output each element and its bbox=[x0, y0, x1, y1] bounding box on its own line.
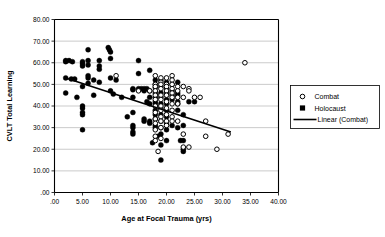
data-point-combat bbox=[164, 123, 169, 128]
y-tick-label: 70.00 bbox=[33, 38, 50, 45]
y-axis-ticks: .0010.0020.0030.0040.0050.0060.0070.0080… bbox=[33, 16, 55, 196]
data-point-combat bbox=[170, 102, 175, 107]
x-tick-label: 25.00 bbox=[186, 198, 203, 205]
data-point-combat bbox=[153, 73, 158, 78]
data-point-combat bbox=[243, 60, 248, 65]
data-point-holocaust bbox=[142, 88, 147, 93]
x-tick-label: 40.00 bbox=[270, 198, 287, 205]
data-point-holocaust bbox=[86, 62, 91, 67]
data-point-combat bbox=[170, 95, 175, 100]
data-point-combat bbox=[192, 95, 197, 100]
legend-label-holocaust: Holocaust bbox=[315, 105, 346, 112]
data-point-combat bbox=[164, 93, 169, 98]
legend-marker-holocaust-icon bbox=[300, 105, 305, 110]
legend-label-combat: Combat bbox=[315, 93, 340, 100]
y-tick-label: 10.00 bbox=[33, 167, 50, 174]
data-point-holocaust bbox=[70, 59, 75, 64]
x-axis-ticks: .005.0010.0015.0020.0025.0030.0035.0040.… bbox=[50, 193, 287, 205]
x-tick-label: .00 bbox=[50, 198, 59, 205]
x-tick-label: 30.00 bbox=[214, 198, 231, 205]
data-point-holocaust bbox=[97, 80, 102, 85]
data-point-combat bbox=[153, 97, 158, 102]
data-point-holocaust bbox=[86, 75, 91, 80]
scatter-chart: .0010.0020.0030.0040.0050.0060.0070.0080… bbox=[0, 0, 385, 237]
x-axis-title: Age at Focal Trauma (yrs) bbox=[121, 214, 212, 223]
data-point-holocaust bbox=[164, 138, 169, 143]
data-point-holocaust bbox=[80, 112, 85, 117]
data-point-combat bbox=[153, 127, 158, 132]
y-tick-label: 30.00 bbox=[33, 124, 50, 131]
y-tick-label: 40.00 bbox=[33, 102, 50, 109]
data-point-holocaust bbox=[142, 119, 147, 124]
data-point-holocaust bbox=[97, 67, 102, 72]
data-point-combat bbox=[153, 121, 158, 126]
data-point-combat bbox=[187, 89, 192, 94]
data-point-holocaust bbox=[74, 95, 79, 100]
x-tick-label: 35.00 bbox=[242, 198, 259, 205]
data-point-combat bbox=[187, 145, 192, 150]
data-point-combat bbox=[198, 95, 203, 100]
data-point-combat bbox=[175, 89, 180, 94]
data-point-combat bbox=[159, 136, 164, 141]
data-point-combat bbox=[181, 95, 186, 100]
data-point-combat bbox=[159, 97, 164, 102]
chart-figure: .0010.0020.0030.0040.0050.0060.0070.0080… bbox=[0, 0, 385, 237]
data-point-holocaust bbox=[181, 123, 186, 128]
data-point-holocaust bbox=[147, 68, 152, 73]
data-point-holocaust bbox=[130, 87, 135, 92]
data-point-combat bbox=[175, 95, 180, 100]
data-point-combat bbox=[170, 119, 175, 124]
data-point-combat bbox=[164, 76, 169, 81]
data-point-holocaust bbox=[91, 78, 96, 83]
data-point-combat bbox=[181, 132, 186, 137]
data-point-combat bbox=[159, 125, 164, 130]
chart-legend: Combat Holocaust Linear (Combat) bbox=[291, 86, 380, 129]
data-point-combat bbox=[147, 89, 152, 94]
legend-marker-combat-icon bbox=[300, 94, 305, 99]
data-point-holocaust bbox=[136, 58, 141, 63]
data-point-combat bbox=[215, 147, 220, 152]
data-point-holocaust bbox=[130, 132, 135, 137]
data-point-holocaust bbox=[80, 63, 85, 68]
y-tick-label: 20.00 bbox=[33, 146, 50, 153]
data-point-combat bbox=[164, 99, 169, 104]
y-axis-title: CVLT Total Learning bbox=[5, 70, 14, 142]
data-point-combat bbox=[203, 134, 208, 139]
data-point-combat bbox=[226, 132, 231, 137]
data-point-holocaust bbox=[86, 47, 91, 52]
data-point-combat bbox=[181, 84, 186, 89]
x-tick-label: 20.00 bbox=[158, 198, 175, 205]
data-point-holocaust bbox=[97, 58, 102, 63]
y-tick-label: 50.00 bbox=[33, 81, 50, 88]
data-point-holocaust bbox=[108, 56, 113, 61]
data-point-holocaust bbox=[175, 108, 180, 113]
data-point-combat bbox=[159, 86, 164, 91]
data-point-combat bbox=[156, 149, 161, 154]
data-point-holocaust bbox=[158, 142, 163, 147]
data-point-combat bbox=[114, 73, 119, 78]
y-tick-label: 60.00 bbox=[33, 59, 50, 66]
y-tick-label: .00 bbox=[40, 189, 49, 196]
data-point-holocaust bbox=[130, 110, 135, 115]
x-tick-label: 5.00 bbox=[76, 198, 89, 205]
data-point-combat bbox=[136, 89, 141, 94]
data-point-combat bbox=[181, 145, 186, 150]
data-point-holocaust bbox=[91, 93, 96, 98]
data-point-holocaust bbox=[108, 75, 113, 80]
data-point-holocaust bbox=[175, 125, 180, 130]
data-point-holocaust bbox=[80, 127, 85, 132]
data-point-combat bbox=[159, 119, 164, 124]
data-point-holocaust bbox=[147, 95, 152, 100]
data-point-holocaust bbox=[186, 99, 191, 104]
y-tick-label: 80.00 bbox=[33, 16, 50, 23]
data-point-holocaust bbox=[147, 121, 152, 126]
data-point-holocaust bbox=[108, 49, 113, 54]
data-point-holocaust bbox=[136, 71, 141, 76]
data-point-combat bbox=[175, 119, 180, 124]
data-point-combat bbox=[153, 110, 158, 115]
x-tick-label: 10.00 bbox=[102, 198, 119, 205]
x-tick-label: 15.00 bbox=[130, 198, 147, 205]
data-point-holocaust bbox=[181, 138, 186, 143]
data-point-combat bbox=[164, 112, 169, 117]
data-point-holocaust bbox=[125, 114, 130, 119]
